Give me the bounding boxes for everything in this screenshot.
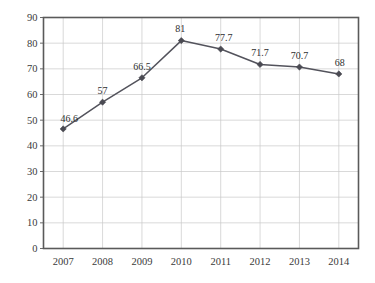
y-axis-tick-label: 10 — [27, 217, 38, 228]
x-axis-tick-label: 2013 — [289, 256, 310, 267]
data-point-label: 70.7 — [291, 50, 309, 61]
line-chart: 0102030405060708090 20072008200920102011… — [0, 0, 375, 283]
data-point-label: 71.7 — [251, 47, 269, 58]
data-point-label: 66.5 — [133, 61, 151, 72]
y-axis-tick-label: 0 — [32, 243, 37, 254]
y-axis-tick-label: 70 — [27, 63, 38, 74]
y-axis-tick-label: 30 — [27, 166, 38, 177]
x-axis-tick-label: 2010 — [171, 256, 192, 267]
x-axis-tick-label: 2014 — [328, 256, 350, 267]
data-point-label: 46.6 — [60, 113, 78, 124]
data-point-label: 77.7 — [215, 32, 233, 43]
y-axis-tick-label: 80 — [27, 38, 38, 49]
data-point-label: 68 — [335, 57, 345, 68]
y-axis-tick-label: 50 — [27, 115, 38, 126]
y-axis-tick-label: 90 — [27, 12, 38, 23]
chart-canvas: 0102030405060708090 20072008200920102011… — [0, 0, 375, 283]
x-axis-tick-label: 2007 — [53, 256, 74, 267]
x-axis-tick-label: 2011 — [210, 256, 231, 267]
y-axis-tick-label: 60 — [27, 89, 38, 100]
data-point-label: 57 — [98, 85, 108, 96]
data-point-label: 81 — [175, 23, 185, 34]
x-axis-tick-label: 2012 — [250, 256, 271, 267]
y-axis-tick-label: 20 — [27, 192, 38, 203]
y-axis-tick-label: 40 — [27, 140, 38, 151]
x-axis-tick-label: 2008 — [92, 256, 113, 267]
x-axis-tick-label: 2009 — [131, 256, 152, 267]
